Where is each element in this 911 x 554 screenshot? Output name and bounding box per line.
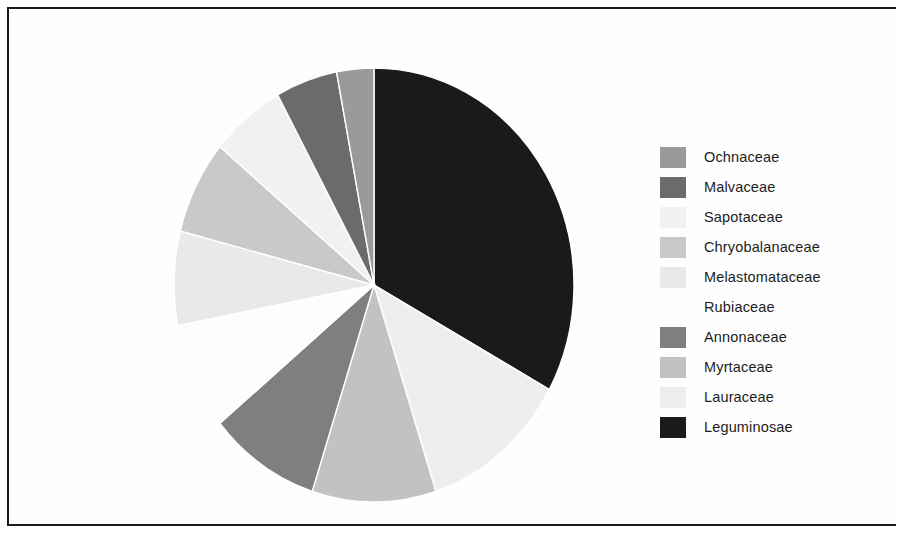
legend-color-swatch xyxy=(660,147,686,168)
chart-legend: OchnaceaeMalvaceaeSapotaceaeChryobalanac… xyxy=(660,142,875,442)
legend-item: Rubiaceae xyxy=(660,292,875,322)
legend-item-label: Sapotaceae xyxy=(704,210,783,225)
legend-item-label: Ochnaceae xyxy=(704,150,780,165)
scan-page-frame: OchnaceaeMalvaceaeSapotaceaeChryobalanac… xyxy=(7,7,896,526)
legend-item-label: Leguminosae xyxy=(704,420,793,435)
legend-item-label: Melastomataceae xyxy=(704,270,821,285)
legend-item: Malvaceae xyxy=(660,172,875,202)
legend-item: Sapotaceae xyxy=(660,202,875,232)
pie-slice-group xyxy=(174,68,574,502)
legend-item-label: Annonaceae xyxy=(704,330,787,345)
legend-item: Lauraceae xyxy=(660,382,875,412)
legend-color-swatch xyxy=(660,237,686,258)
legend-color-swatch xyxy=(660,417,686,438)
legend-item-label: Rubiaceae xyxy=(704,300,775,315)
legend-item-label: Lauraceae xyxy=(704,390,774,405)
legend-color-swatch xyxy=(660,327,686,348)
legend-color-swatch xyxy=(660,297,686,318)
legend-item: Ochnaceae xyxy=(660,142,875,172)
pie-chart xyxy=(172,65,576,505)
legend-color-swatch xyxy=(660,267,686,288)
pie-chart-svg xyxy=(172,65,576,505)
legend-item: Chryobalanaceae xyxy=(660,232,875,262)
legend-item: Leguminosae xyxy=(660,412,875,442)
legend-item: Myrtaceae xyxy=(660,352,875,382)
legend-color-swatch xyxy=(660,207,686,228)
legend-item-label: Malvaceae xyxy=(704,180,775,195)
legend-item-label: Myrtaceae xyxy=(704,360,773,375)
legend-item-label: Chryobalanaceae xyxy=(704,240,820,255)
legend-color-swatch xyxy=(660,387,686,408)
legend-item: Annonaceae xyxy=(660,322,875,352)
legend-color-swatch xyxy=(660,177,686,198)
legend-color-swatch xyxy=(660,357,686,378)
figure-root: OchnaceaeMalvaceaeSapotaceaeChryobalanac… xyxy=(0,0,911,554)
legend-item: Melastomataceae xyxy=(660,262,875,292)
